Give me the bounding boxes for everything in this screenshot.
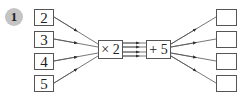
add-operation-box: + 5 xyxy=(146,40,171,59)
multiply-operation-box: × 2 xyxy=(98,40,123,59)
output-box-3[interactable] xyxy=(216,53,237,70)
input-box-1: 2 xyxy=(34,9,54,26)
input-box-4: 5 xyxy=(34,75,54,92)
output-box-1[interactable] xyxy=(216,9,237,26)
output-box-2[interactable] xyxy=(216,31,237,48)
output-box-4[interactable] xyxy=(216,75,237,92)
input-box-2: 3 xyxy=(34,31,54,48)
input-box-3: 4 xyxy=(34,53,54,70)
